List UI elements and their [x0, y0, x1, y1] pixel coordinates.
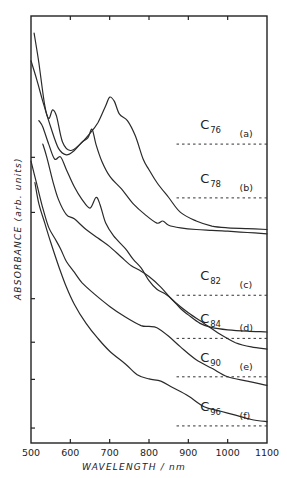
series-label-tag: (c) [239, 279, 252, 290]
spectrum-c90 [31, 161, 267, 385]
spectrum-c78 [31, 61, 267, 234]
series-label-subscript: 76 [210, 125, 221, 135]
series-label-c82: C82(c) [200, 268, 252, 290]
y-axis-title: ABSORBANCE (arb. units) [13, 157, 23, 301]
baselines [177, 144, 267, 426]
spectrum-c96 [35, 183, 267, 422]
x-tick-label: 1100 [255, 447, 279, 458]
series-label-tag: (b) [239, 182, 252, 193]
x-tick-labels: 50060070080090010001100 [22, 447, 279, 458]
series-label-c90: C90(e) [200, 350, 253, 372]
series-label-tag: (e) [239, 361, 252, 372]
series-label-base: C [200, 311, 209, 326]
x-tick-label: 700 [101, 447, 119, 458]
series-label-base: C [200, 350, 209, 365]
series-label-subscript: 96 [210, 407, 221, 417]
x-tick-label: 1000 [216, 447, 240, 458]
series-label-base: C [200, 171, 209, 186]
series-label-c78: C78(b) [200, 171, 253, 193]
absorbance-chart: C76(a)C78(b)C82(c)C84(d)C90(e)C96(f) 500… [0, 0, 287, 478]
series-label-c76: C76(a) [200, 117, 253, 139]
series-label-subscript: 82 [210, 276, 221, 286]
spectra [31, 33, 267, 422]
series-label-base: C [200, 117, 209, 132]
series-label-subscript: 90 [210, 358, 221, 368]
series-label-tag: (d) [239, 322, 252, 333]
x-tick-label: 900 [179, 447, 197, 458]
x-tick-label: 600 [61, 447, 79, 458]
spectrum-c82 [39, 121, 267, 332]
x-tick-label: 800 [140, 447, 158, 458]
series-label-tag: (a) [239, 128, 252, 139]
x-tick-label: 500 [22, 447, 40, 458]
series-label-base: C [200, 268, 209, 283]
series-labels: C76(a)C78(b)C82(c)C84(d)C90(e)C96(f) [200, 117, 253, 421]
series-label-subscript: 84 [210, 319, 221, 329]
series-label-tag: (f) [239, 410, 250, 421]
series-label-c96: C96(f) [200, 399, 250, 421]
spectrum-c76 [34, 33, 267, 229]
x-axis-title: WAVELENGTH / nm [82, 462, 186, 472]
series-label-subscript: 78 [210, 179, 221, 189]
spectrum-c84 [43, 144, 267, 349]
series-label-base: C [200, 399, 209, 414]
